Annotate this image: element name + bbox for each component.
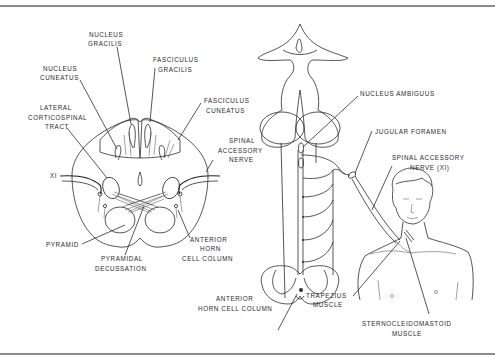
label-anterior-horn-left-3: CELL COLUMN: [182, 255, 233, 262]
label-sternocleidomastoid-2: MUSCLE: [392, 330, 422, 337]
label-spinal-accessory-left-1: SPINAL: [229, 137, 255, 144]
label-pyramidal-decussation-1: PYRAMIDAL: [101, 255, 143, 262]
label-anterior-horn-left-1: ANTERIOR: [190, 236, 227, 243]
label-anterior-horn-left-2: HORN: [200, 245, 221, 252]
label-nucleus-ambiguus: NUCLEUS AMBIGUUS: [360, 90, 435, 97]
label-nucleus-gracilis-1: NUCLEUS: [89, 31, 123, 38]
label-lateral-corticospinal-1: LATERAL: [40, 104, 72, 111]
label-anterior-horn-right-1: ANTERIOR: [216, 295, 253, 302]
label-spinal-accessory-right-1: SPINAL ACCESSORY: [392, 154, 465, 161]
anatomy-diagram: NUCLEUS GRACILIS FASCICULUS GRACILIS NUC…: [0, 0, 495, 359]
label-lateral-corticospinal-3: TRACT: [45, 123, 69, 130]
label-fasciculus-cuneatus-1: FASCICULUS: [204, 97, 250, 104]
right-leader-lines: [353, 238, 429, 314]
label-pyramidal-decussation-2: DECUSSATION: [95, 265, 147, 272]
label-fasciculus-cuneatus-2: CUNEATUS: [206, 107, 245, 114]
label-nucleus-cuneatus-2: CUNEATUS: [40, 74, 79, 81]
label-trapezius-2: MUSCLE: [313, 301, 343, 308]
label-spinal-accessory-right-2: NERVE (XI): [410, 164, 449, 172]
left-leader-lines: [67, 47, 213, 255]
label-xi: XI: [50, 172, 57, 179]
brainstem: [258, 24, 400, 304]
labels: NUCLEUS GRACILIS FASCICULUS GRACILIS NUC…: [28, 31, 465, 337]
label-trapezius-1: TRAPEZIUS: [306, 292, 347, 299]
label-anterior-horn-right-2: HORN CELL COLUMN: [198, 305, 272, 312]
label-sternocleidomastoid-1: STERNOCLEIDOMASTOID: [362, 320, 452, 327]
label-spinal-accessory-left-2: ACCESSORY: [218, 147, 263, 154]
label-lateral-corticospinal-2: CORTICOSPINAL: [28, 114, 87, 121]
label-pyramid: PYRAMID: [46, 241, 79, 248]
label-nucleus-cuneatus-1: NUCLEUS: [43, 65, 77, 72]
label-jugular-foramen: JUGULAR FORAMEN: [375, 128, 447, 135]
human-figure: [358, 168, 473, 300]
cord-cross-section: [60, 118, 220, 247]
label-fasciculus-gracilis-2: GRACILIS: [158, 66, 192, 73]
label-nucleus-gracilis-2: GRACILIS: [88, 40, 122, 47]
label-fasciculus-gracilis-1: FASCICULUS: [153, 56, 199, 63]
label-spinal-accessory-left-3: NERVE: [229, 156, 254, 163]
